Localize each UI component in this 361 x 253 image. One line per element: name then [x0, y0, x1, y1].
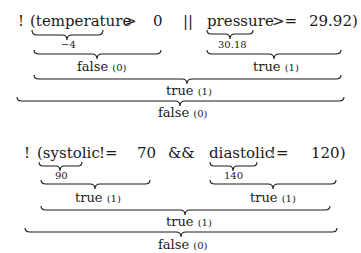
op-gt: > — [124, 14, 137, 29]
value-29-92: 29.92) — [309, 14, 358, 29]
var-diastolic: diastolic — [209, 146, 273, 161]
temperature-value: −4 — [61, 40, 76, 50]
value-70: 70 — [137, 146, 156, 161]
var-temperature: (temperature — [30, 14, 131, 29]
logical-and: && — [168, 146, 195, 161]
op-neq-2: != — [270, 146, 289, 161]
result-left: true (1) — [75, 191, 121, 204]
var-pressure: pressure — [207, 14, 274, 29]
op-neq: != — [99, 146, 118, 161]
brace-true-right — [207, 50, 341, 59]
not-operator: ! — [24, 146, 30, 161]
result-final: false (0) — [158, 106, 207, 119]
result-right: true (1) — [253, 60, 299, 73]
value-120: 120) — [311, 146, 345, 161]
not-operator: ! — [18, 14, 24, 29]
brace-false-final-2 — [25, 228, 337, 237]
brace-true-right-2 — [210, 180, 336, 189]
op-gte: >= — [272, 14, 297, 29]
result-right: true (1) — [250, 191, 296, 204]
diastolic-value: 140 — [224, 171, 243, 181]
var-systolic: (systolic — [37, 146, 100, 161]
logical-or: || — [183, 14, 193, 29]
systolic-value: 90 — [55, 171, 68, 181]
value-0: 0 — [153, 14, 163, 29]
result-left: false (0) — [77, 60, 126, 73]
brace-false-left — [34, 50, 161, 59]
brace-pressure — [207, 30, 253, 39]
pressure-value: 30.18 — [218, 40, 247, 50]
result-combined: true (1) — [166, 84, 212, 97]
brace-true-left — [41, 180, 150, 189]
result-combined: true (1) — [166, 215, 212, 228]
result-final: false (0) — [158, 238, 207, 251]
